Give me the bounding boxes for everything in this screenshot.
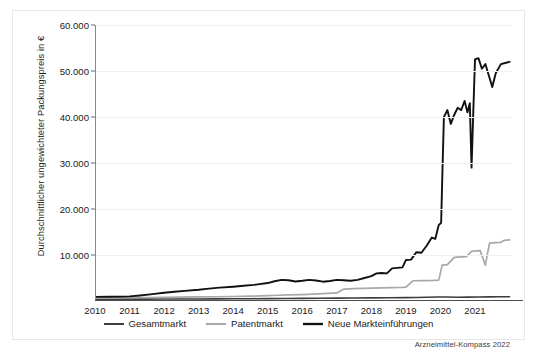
x-tick-label: 2021	[464, 305, 485, 316]
x-tick-label: 2012	[153, 305, 174, 316]
y-tick-mark	[91, 117, 95, 118]
gridline	[95, 209, 513, 210]
gridline	[95, 255, 513, 256]
series-line	[95, 58, 510, 297]
x-tick-label: 2016	[292, 305, 313, 316]
y-tick-mark	[91, 209, 95, 210]
series-line	[95, 240, 510, 298]
legend-item[interactable]: Neue Markteinführungen	[303, 318, 434, 329]
legend-label: Gesamtmarkt	[129, 318, 187, 329]
x-tick-label: 2020	[430, 305, 451, 316]
y-tick-label: 20.000	[60, 204, 89, 215]
y-axis-line	[95, 25, 96, 301]
x-axis-line	[95, 300, 523, 302]
y-tick-label: 40.000	[60, 112, 89, 123]
gridline	[95, 71, 513, 72]
x-tick-label: 2010	[84, 305, 105, 316]
chart-figure: Durchschnittlicher ungewichteter Packung…	[12, 10, 525, 340]
chart-legend: GesamtmarktPatentmarktNeue Markteinführu…	[13, 318, 524, 329]
x-tick-label: 2013	[188, 305, 209, 316]
gridline	[95, 163, 513, 164]
y-tick-label: 10.000	[60, 250, 89, 261]
gridline	[95, 117, 513, 118]
legend-item[interactable]: Patentmarkt	[206, 318, 283, 329]
y-axis-label: Durchschnittlicher ungewichteter Packung…	[36, 11, 46, 281]
x-tick-label: 2015	[257, 305, 278, 316]
y-tick-mark	[91, 71, 95, 72]
plot-area: 60.00050.00040.00030.00020.00010.000 201…	[95, 25, 513, 301]
legend-label: Patentmarkt	[231, 318, 283, 329]
x-tick-label: 2019	[395, 305, 416, 316]
y-tick-mark	[91, 163, 95, 164]
y-tick-label: 50.000	[60, 66, 89, 77]
y-tick-label: 60.000	[60, 20, 89, 31]
legend-item[interactable]: Gesamtmarkt	[104, 318, 187, 329]
legend-swatch	[303, 321, 323, 327]
legend-swatch	[104, 321, 124, 327]
x-tick-label: 2017	[326, 305, 347, 316]
x-tick-label: 2011	[119, 305, 140, 316]
legend-swatch	[206, 321, 226, 327]
x-tick-label: 2018	[361, 305, 382, 316]
y-tick-mark	[91, 255, 95, 256]
y-tick-mark	[91, 25, 95, 26]
gridline	[95, 25, 513, 26]
source-credit: Arzneimittel-Kompass 2022	[415, 340, 510, 349]
x-tick-label: 2014	[223, 305, 244, 316]
legend-label: Neue Markteinführungen	[328, 318, 434, 329]
y-tick-label: 30.000	[60, 158, 89, 169]
